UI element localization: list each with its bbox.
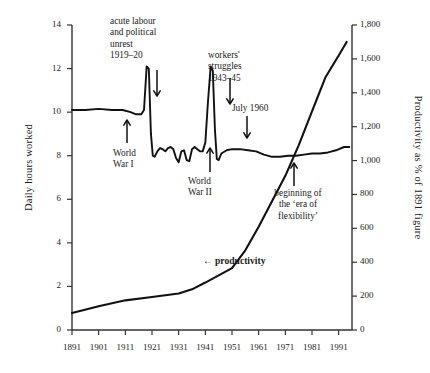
annotation-arrow-world-war-two xyxy=(207,148,213,172)
right-axis-tick-label: 800 xyxy=(360,188,400,198)
annotation-world-war-two: World War II xyxy=(188,176,212,199)
right-axis-tick-label: 1,800 xyxy=(360,19,400,29)
annotation-arrow-july-1960 xyxy=(244,116,250,138)
annotation-workers-struggles-line2: struggles xyxy=(208,61,242,72)
left-axis-tick-label: 14 xyxy=(35,19,61,29)
annotation-world-war-one: World War I xyxy=(113,148,136,171)
annotation-arrow-era-of-flexibility xyxy=(291,163,297,186)
annotation-world-war-two-line2: War II xyxy=(188,187,212,198)
annotation-acute-unrest: acute labour and political unrest 1919–2… xyxy=(110,16,156,62)
left-axis-tick-label: 8 xyxy=(35,150,61,160)
annotation-acute-unrest-line4: 1919–20 xyxy=(110,50,156,61)
left-axis-tick-label: 12 xyxy=(35,63,61,73)
chart-figure: Daily hours worked Productivity as % of … xyxy=(0,0,430,373)
right-axis-title: Productivity as % of 1891 figure xyxy=(413,68,424,268)
annotation-workers-struggles: workers' struggles 1943–45 xyxy=(208,50,242,84)
annotation-arrow-world-war-one xyxy=(124,120,130,143)
annotation-july-1960: July 1960 xyxy=(232,103,268,114)
annotation-world-war-one-line2: War I xyxy=(113,159,136,170)
annotation-acute-unrest-line2: and political xyxy=(110,27,156,38)
left-axis-title: Daily hours worked xyxy=(23,88,34,248)
annotation-era-of-flexibility-line1: beginning of xyxy=(255,188,341,199)
annotation-acute-unrest-line1: acute labour xyxy=(110,16,156,27)
annotation-workers-struggles-line3: 1943–45 xyxy=(208,73,242,84)
x-axis-tick-label: 1991 xyxy=(319,342,359,352)
annotation-acute-unrest-line3: unrest xyxy=(110,39,156,50)
annotation-arrow-acute-unrest xyxy=(154,70,160,96)
annotation-workers-struggles-line1: workers' xyxy=(208,50,242,61)
right-axis-tick-label: 1,200 xyxy=(360,121,400,131)
right-axis-tick-label: 1,600 xyxy=(360,53,400,63)
left-axis-tick-label: 6 xyxy=(35,193,61,203)
right-axis-tick-label: 0 xyxy=(360,324,400,334)
annotation-world-war-two-line1: World xyxy=(188,176,212,187)
left-axis-tick-label: 0 xyxy=(35,324,61,334)
left-axis-tick-label: 4 xyxy=(35,237,61,247)
annotation-era-of-flexibility: beginning of the ‘era of flexibility’ xyxy=(255,188,341,222)
right-axis-tick-label: 400 xyxy=(360,256,400,266)
right-axis-tick-label: 1,400 xyxy=(360,87,400,97)
right-axis-tick-label: 200 xyxy=(360,290,400,300)
right-axis-tick-label: 1,000 xyxy=(360,155,400,165)
annotation-era-of-flexibility-line3: flexibility’ xyxy=(255,211,341,222)
series-label-productivity-text: ← productivity xyxy=(203,255,265,266)
right-axis-tick-label: 600 xyxy=(360,222,400,232)
annotation-era-of-flexibility-line2: the ‘era of xyxy=(255,199,341,210)
left-axis-tick-label: 2 xyxy=(35,280,61,290)
left-axis-tick-label: 10 xyxy=(35,106,61,116)
annotation-july-1960-line1: July 1960 xyxy=(232,103,268,114)
annotation-world-war-one-line1: World xyxy=(113,148,136,159)
series-label-productivity: ← productivity xyxy=(203,255,265,266)
